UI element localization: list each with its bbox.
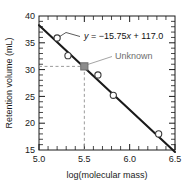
data-point (156, 131, 162, 137)
fit-equation-label: y = −15.75x + 117.0 (83, 31, 163, 41)
y-tick-label: 30 (25, 65, 35, 75)
y-axis-title: Retention volume (mL) (4, 37, 14, 128)
data-point (95, 72, 101, 78)
x-tick-label: 6.0 (123, 154, 136, 164)
x-tick-label: 5.5 (78, 154, 91, 164)
y-tick-label: 35 (25, 38, 35, 48)
y-tick-label: 20 (25, 118, 35, 128)
y-axis-tick-labels: 15 20 25 30 35 40 (25, 11, 35, 155)
equation-body: = −15.75 (89, 31, 127, 41)
y-tick-label: 25 (25, 92, 35, 102)
data-point (65, 53, 71, 59)
x-axis-tick-labels: 5.0 5.5 6.0 6.5 (33, 154, 182, 164)
data-point (110, 92, 116, 98)
retention-volume-scatter-plot: 5.0 5.5 6.0 6.5 15 20 25 30 35 40 log(mo… (0, 0, 189, 187)
x-axis-title: log(molecular mass) (66, 170, 147, 180)
equation-tail: + 117.0 (131, 31, 163, 41)
x-tick-label: 5.0 (33, 154, 46, 164)
unknown-annotation-label: Unknown (115, 51, 153, 61)
y-tick-label: 15 (25, 145, 35, 155)
y-tick-label: 40 (25, 11, 35, 21)
unknown-marker (81, 63, 88, 70)
chart-figure: 5.0 5.5 6.0 6.5 15 20 25 30 35 40 log(mo… (0, 0, 189, 187)
x-tick-label: 6.5 (169, 154, 182, 164)
data-point (54, 35, 60, 41)
